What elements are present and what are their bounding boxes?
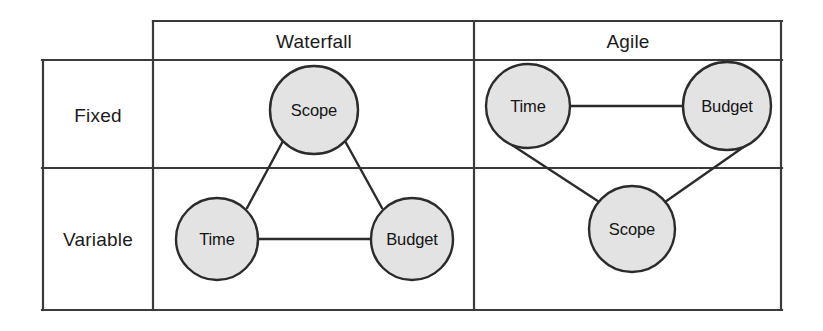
edge-wf-scope-budget — [345, 141, 382, 208]
matrix-figure: Waterfall Agile Fixed Variable Scope Tim… — [0, 0, 823, 331]
node-label-waterfall-budget: Budget — [386, 231, 438, 248]
column-header-waterfall: Waterfall — [276, 32, 352, 51]
waterfall-nodes — [176, 66, 453, 280]
node-label-waterfall-time: Time — [199, 231, 235, 248]
matrix-canvas — [0, 0, 823, 331]
edge-ag-time-scope — [512, 145, 610, 209]
column-header-agile: Agile — [606, 32, 649, 51]
edge-wf-scope-time — [247, 141, 283, 208]
row-header-variable: Variable — [63, 230, 133, 249]
node-label-agile-time: Time — [510, 98, 546, 115]
node-label-waterfall-scope: Scope — [291, 102, 337, 119]
waterfall-edges — [247, 141, 382, 239]
node-label-agile-budget: Budget — [701, 98, 753, 115]
edge-ag-budget-scope — [655, 146, 745, 209]
row-header-fixed: Fixed — [74, 106, 121, 125]
node-label-agile-scope: Scope — [609, 221, 655, 238]
